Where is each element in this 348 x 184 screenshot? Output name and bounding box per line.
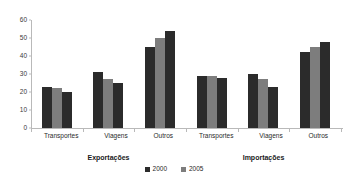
group-title: Importações <box>243 154 285 161</box>
grouped-bar-chart: 0102030405060 TransportesViagensOutrosTr… <box>0 0 348 184</box>
y-axis-tick-label: 60 <box>20 17 27 24</box>
y-axis-tick-label: 0 <box>23 125 27 132</box>
y-axis-tick-label: 30 <box>20 71 27 78</box>
category-tick <box>238 128 239 132</box>
y-axis-tick-label: 50 <box>20 35 27 42</box>
bar-group-exportacoes <box>31 20 186 128</box>
category-tick <box>289 128 290 132</box>
category-tick <box>134 128 135 132</box>
y-axis-tick-label: 20 <box>20 89 27 96</box>
y-axis-tick-label: 10 <box>20 107 27 114</box>
category-label: Viagens <box>259 133 282 140</box>
category-label: Transportes <box>44 133 78 140</box>
category-label-group: TransportesViagensOutros <box>31 133 186 140</box>
chart-legend: 20002005 <box>0 166 348 173</box>
bar <box>217 78 227 128</box>
legend-label: 2005 <box>189 166 203 173</box>
legend-swatch-icon <box>145 167 150 172</box>
category-cluster <box>197 20 227 128</box>
bar <box>248 74 258 128</box>
legend-item[interactable]: 2000 <box>145 166 167 173</box>
category-row <box>31 20 186 128</box>
bar-group-importacoes <box>186 20 341 128</box>
bar <box>300 52 310 128</box>
category-cluster <box>248 20 278 128</box>
plot-area: 0102030405060 <box>31 20 341 128</box>
bar <box>52 88 62 128</box>
group-title-cell: Importações <box>186 146 341 164</box>
bar <box>42 87 52 128</box>
legend-item[interactable]: 2005 <box>181 166 203 173</box>
bar <box>93 72 103 128</box>
category-label: Outros <box>309 133 329 140</box>
category-label: Transportes <box>199 133 233 140</box>
group-title-cell: Exportações <box>31 146 186 164</box>
bar <box>62 92 72 128</box>
category-axis-labels: TransportesViagensOutrosTransportesViage… <box>31 133 341 140</box>
group-title: Exportações <box>87 154 129 161</box>
category-tick <box>83 128 84 132</box>
category-label: Outros <box>154 133 174 140</box>
bar <box>320 42 330 128</box>
bar <box>145 47 155 128</box>
category-cluster <box>145 20 175 128</box>
category-cluster <box>93 20 123 128</box>
category-tick <box>31 128 32 132</box>
bar <box>165 31 175 128</box>
legend-swatch-icon <box>181 167 186 172</box>
legend-label: 2000 <box>153 166 167 173</box>
bar <box>155 38 165 128</box>
group-titles: ExportaçõesImportações <box>31 146 341 164</box>
category-cluster <box>300 20 330 128</box>
bar <box>310 47 320 128</box>
category-row <box>186 20 341 128</box>
bar <box>268 87 278 128</box>
bar <box>207 76 217 128</box>
category-label: Viagens <box>104 133 127 140</box>
category-cluster <box>42 20 72 128</box>
bar <box>197 76 207 128</box>
category-label-group: TransportesViagensOutros <box>186 133 341 140</box>
category-tick <box>186 128 187 132</box>
bar <box>113 83 123 128</box>
category-tick <box>341 128 342 132</box>
bar-groups <box>31 20 341 128</box>
bar <box>258 79 268 128</box>
bar <box>103 79 113 128</box>
y-axis-tick-label: 40 <box>20 53 27 60</box>
